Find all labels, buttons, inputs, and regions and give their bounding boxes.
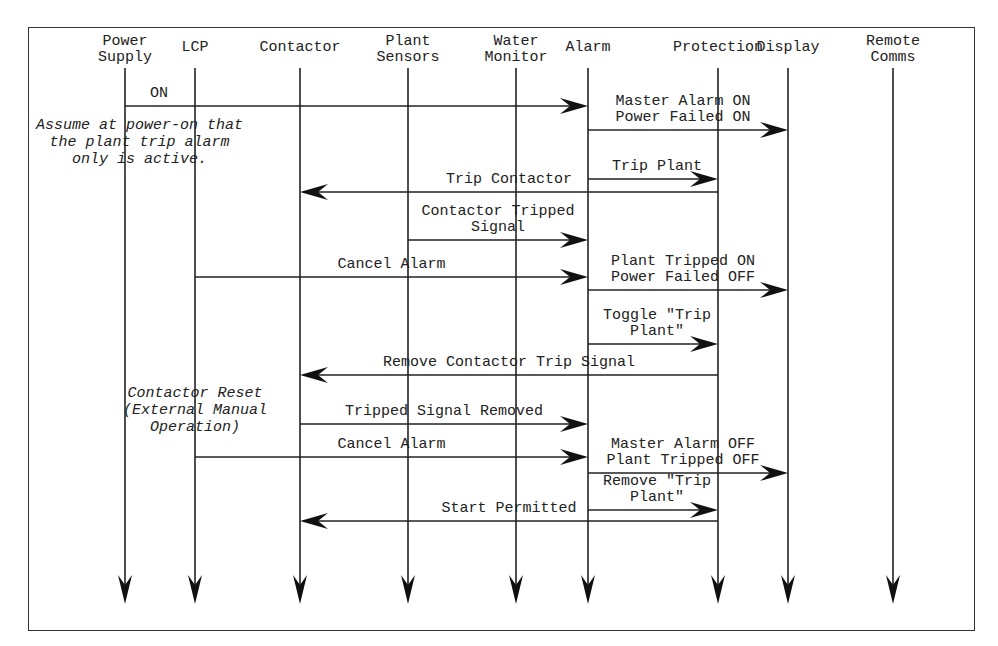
lifeline-remote-comms — [886, 68, 900, 604]
participant-header-protection: Protection — [673, 40, 763, 56]
message-label: Remove Contactor Trip Signal — [300, 355, 718, 371]
lifeline-water-monitor — [509, 68, 523, 604]
lifeline-plant-sensors — [401, 68, 415, 604]
participant-header-plant-sensors: Plant Sensors — [376, 34, 439, 66]
message-label: Cancel Alarm — [195, 257, 588, 273]
participant-header-alarm: Alarm — [565, 40, 610, 56]
message-label: Trip Contactor — [300, 172, 718, 188]
participant-header-display: Display — [756, 40, 819, 56]
message-label: Plant Tripped ON Power Failed OFF — [583, 254, 783, 286]
lifeline-contactor — [293, 68, 307, 604]
message-label: Cancel Alarm — [195, 437, 588, 453]
message-label: Tripped Signal Removed — [300, 404, 588, 420]
lifeline-display — [781, 68, 795, 604]
participant-header-contactor: Contactor — [259, 40, 340, 56]
message-label: Master Alarm OFF Plant Tripped OFF — [583, 437, 783, 469]
annotation-note: Contactor Reset (External Manual Operati… — [123, 385, 267, 436]
participant-header-lcp: LCP — [181, 40, 208, 56]
message-label: Contactor Tripped Signal — [408, 204, 588, 236]
message-label: Toggle "Trip Plant" — [592, 308, 722, 340]
annotation-note: Assume at power-on that the plant trip a… — [36, 117, 243, 168]
participant-header-power-supply: Power Supply — [98, 34, 152, 66]
participant-header-remote-comms: Remote Comms — [866, 34, 920, 66]
participant-header-water-monitor: Water Monitor — [484, 34, 547, 66]
message-label: Start Permitted — [300, 501, 718, 517]
message-label: ON — [150, 86, 613, 102]
message-label: Master Alarm ON Power Failed ON — [583, 94, 783, 126]
